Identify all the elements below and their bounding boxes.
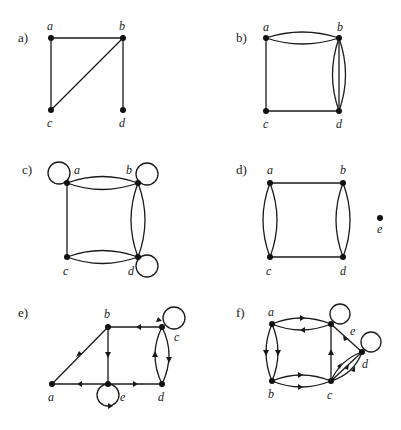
vertex-d	[340, 254, 346, 260]
vertex-label-b: b	[340, 163, 346, 177]
edge-c-d-2	[67, 257, 138, 264]
loop-e	[97, 384, 119, 406]
arrow-c-e	[328, 349, 334, 355]
vertex-b	[336, 35, 342, 41]
panel-c: c) a b c d	[22, 162, 158, 278]
vertex-label-b: b	[119, 19, 125, 33]
vertex-b	[105, 324, 111, 330]
vertex-d	[120, 107, 126, 113]
arrow-b-c-2	[298, 384, 303, 390]
vertex-label-a: a	[263, 20, 269, 34]
arrow-a-e	[300, 315, 305, 321]
vertex-c	[263, 108, 269, 114]
vertex-c	[48, 107, 54, 113]
vertex-a	[49, 381, 55, 387]
vertex-label-a: a	[267, 163, 273, 177]
panel-label: e)	[18, 305, 28, 320]
panel-f: f) a b c d e	[236, 304, 381, 402]
arrow-c-d	[166, 357, 172, 363]
vertex-e	[377, 215, 383, 221]
vertex-b	[120, 35, 126, 41]
vertex-c	[328, 378, 334, 384]
vertex-b	[269, 378, 275, 384]
edge-b-c	[51, 38, 123, 110]
panel-e: e) a b c d e	[18, 305, 185, 409]
edge-a-b	[52, 327, 108, 384]
arrow-e-a	[77, 381, 82, 387]
vertex-label-a: a	[48, 390, 54, 404]
edge-b-d-2	[343, 183, 350, 257]
vertex-c	[267, 254, 273, 260]
edge-a-b-1	[67, 177, 138, 184]
vertex-label-b: b	[337, 20, 343, 34]
vertex-label-d: d	[336, 117, 343, 131]
vertex-label-a: a	[47, 19, 53, 33]
vertex-label-e: e	[377, 222, 383, 236]
vertex-label-c: c	[47, 116, 53, 130]
vertex-c	[159, 324, 165, 330]
arrow-loop-e	[108, 403, 113, 409]
edge-a-b-2	[67, 183, 138, 190]
vertex-a	[64, 180, 70, 186]
vertex-label-c: c	[63, 264, 69, 278]
loop-e	[330, 304, 350, 324]
loop-d	[361, 332, 381, 352]
vertex-b	[340, 180, 346, 186]
panel-label: b)	[236, 30, 247, 45]
vertex-label-e: e	[350, 324, 356, 338]
vertex-b	[135, 180, 141, 186]
vertex-d	[359, 349, 365, 355]
vertex-label-c: c	[174, 330, 180, 344]
vertex-label-d: d	[340, 264, 347, 278]
vertex-label-b: b	[126, 163, 132, 177]
panel-a: a) a b c d	[18, 19, 126, 130]
edge-b-d-3	[339, 38, 346, 111]
arrow-e-d	[133, 381, 138, 387]
vertex-label-b: b	[268, 387, 274, 401]
panel-label: d)	[236, 162, 247, 177]
vertex-label-e: e	[120, 390, 126, 404]
vertex-c	[64, 254, 70, 260]
edge-c-d-1	[67, 251, 138, 258]
vertex-a	[269, 321, 275, 327]
graph-figure: a) a b c d b) a b c d c)	[0, 0, 401, 430]
vertex-label-d: d	[362, 357, 369, 371]
vertex-e	[328, 321, 334, 327]
panel-label: f)	[236, 305, 245, 320]
panel-label: c)	[22, 162, 32, 177]
vertex-label-d: d	[128, 264, 135, 278]
arrow-c-b	[136, 324, 141, 330]
arrow-e-a	[300, 327, 305, 333]
edge-a-b-1	[266, 32, 339, 38]
vertex-label-a: a	[268, 305, 274, 319]
edge-a-b-2	[266, 38, 339, 44]
vertex-a	[267, 180, 273, 186]
panel-label: a)	[18, 30, 28, 45]
arrow-b-c-1	[298, 372, 303, 378]
edge-b-d-1	[333, 38, 340, 111]
arrow-b-e	[105, 352, 111, 358]
vertex-a	[263, 35, 269, 41]
vertex-label-a: a	[74, 163, 80, 177]
arrow-a-b-2	[275, 350, 281, 356]
vertex-a	[48, 35, 54, 41]
edge-c-d	[162, 327, 169, 384]
vertex-label-d: d	[158, 390, 165, 404]
vertex-d	[336, 108, 342, 114]
edge-a-c-2	[270, 183, 277, 257]
arrow-d-c	[152, 351, 158, 357]
vertex-label-c: c	[263, 117, 269, 131]
arrow-loop-c	[156, 317, 162, 322]
vertex-d	[159, 381, 165, 387]
vertex-d	[135, 254, 141, 260]
edge-b-d-2	[138, 183, 145, 257]
edge-b-d-1	[131, 183, 138, 257]
vertex-label-c: c	[266, 264, 272, 278]
arrow-a-b-1	[263, 350, 269, 356]
loop-c	[163, 307, 185, 329]
arrow-c-d-2	[344, 364, 349, 370]
panel-b: b) a b c d	[236, 20, 346, 131]
vertex-label-c: c	[327, 388, 333, 402]
edge-a-c-1	[263, 183, 270, 257]
panel-d: d) a b c d e	[236, 162, 383, 278]
